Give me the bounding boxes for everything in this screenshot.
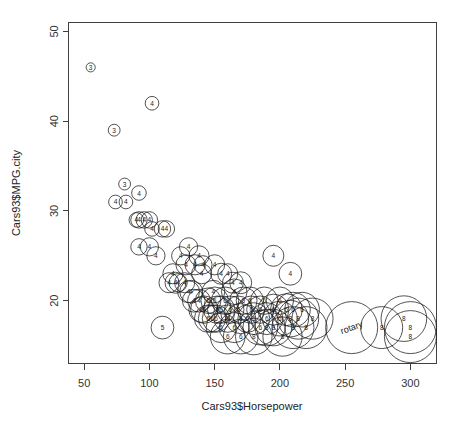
data-point-label: 4 xyxy=(150,100,154,107)
data-point-label: 6 xyxy=(265,315,269,322)
data-point-label: 8 xyxy=(311,315,315,322)
data-point-label: 4 xyxy=(165,225,169,232)
data-point-label: 4 xyxy=(183,279,187,286)
y-tick-label: 30 xyxy=(49,205,61,217)
data-point-label: 8 xyxy=(296,315,300,322)
data-point-label: 4 xyxy=(124,198,128,205)
data-point-label: 8 xyxy=(409,333,413,340)
data-point-label: 4 xyxy=(154,252,158,259)
data-point-label: 8 xyxy=(402,315,406,322)
x-tick-label: 250 xyxy=(336,377,354,389)
data-point-label: 4 xyxy=(114,198,118,205)
data-point-label: 6 xyxy=(239,333,243,340)
x-tick-label: 100 xyxy=(140,377,158,389)
y-tick-label: 40 xyxy=(49,115,61,127)
data-point-label: 3 xyxy=(89,64,93,71)
x-tick-label: 300 xyxy=(401,377,419,389)
data-point-label: 4 xyxy=(272,252,276,259)
data-point-label: 4 xyxy=(137,190,141,197)
data-point-label: 6 xyxy=(232,324,236,331)
data-point-label: 6 xyxy=(259,324,263,331)
x-tick-label: 50 xyxy=(78,377,90,389)
data-point-label: 5 xyxy=(161,324,165,331)
data-point-label: 3 xyxy=(123,181,127,188)
data-point-label: 3 xyxy=(112,127,116,134)
data-point-label: 4 xyxy=(289,270,293,277)
data-point-label: 4 xyxy=(142,216,146,223)
data-point-label: 4 xyxy=(137,216,141,223)
data-point-label: 8 xyxy=(409,324,413,331)
data-point-label: 4 xyxy=(219,270,223,277)
data-point-label: 4 xyxy=(197,297,201,304)
x-tick-label: 200 xyxy=(271,377,289,389)
y-tick-label: 50 xyxy=(49,25,61,37)
x-tick-label: 150 xyxy=(205,377,223,389)
x-axis-title: Cars93$Horsepower xyxy=(202,400,303,412)
data-point-label: 8 xyxy=(304,324,308,331)
data-point-label: 6 xyxy=(226,333,230,340)
plot-background xyxy=(0,0,461,437)
scatter-plot-svg: 20304050 50100150200250300 3343444444444… xyxy=(0,0,461,437)
y-axis-title: Cars93$MPG.city xyxy=(10,149,22,236)
y-tick-label: 20 xyxy=(49,295,61,307)
data-point-label: 6 xyxy=(214,315,218,322)
chart-container: 20304050 50100150200250300 3343444444444… xyxy=(0,0,461,437)
data-point-label: 4 xyxy=(231,279,235,286)
data-point-label: 4 xyxy=(150,225,154,232)
data-point-label: 4 xyxy=(187,243,191,250)
